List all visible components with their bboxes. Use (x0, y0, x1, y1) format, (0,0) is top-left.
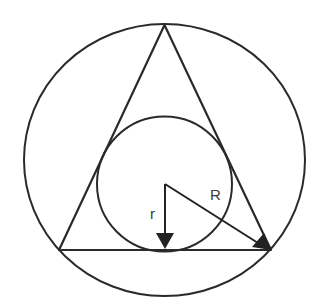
triangle-incircle-circumcircle-diagram: r R (0, 0, 319, 306)
circumradius-label: R (210, 186, 221, 203)
inradius-label: r (150, 205, 155, 222)
circumcircle (24, 24, 305, 296)
inradius-arrowhead-icon (156, 233, 174, 249)
